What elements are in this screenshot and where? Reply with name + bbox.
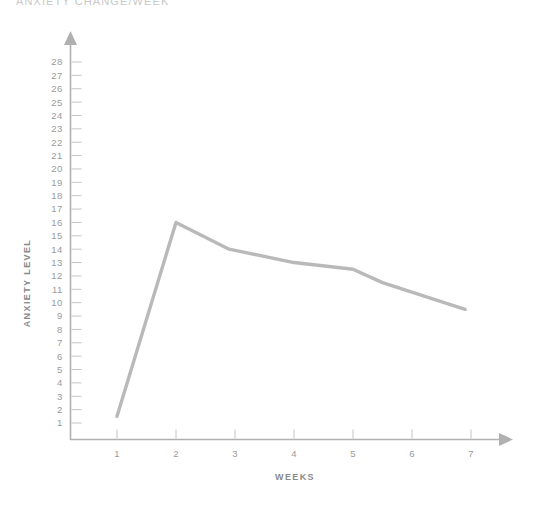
y-tick-label: 10: [51, 297, 62, 308]
y-tick-label: 7: [57, 337, 63, 348]
y-tick-label: 12: [51, 270, 62, 281]
y-tick-label: 9: [57, 310, 63, 321]
y-tick-label: 24: [51, 110, 62, 121]
y-tick-label: 3: [57, 391, 63, 402]
y-axis-arrowhead: [64, 31, 77, 45]
chart-plot-area: 1234567891011121314151617181920212223242…: [0, 0, 538, 509]
y-axis-title: ANXIETY LEVEL: [22, 239, 32, 328]
y-tick-label: 25: [51, 97, 62, 108]
y-tick-label: 20: [51, 163, 62, 174]
y-axis-ticks: 1234567891011121314151617181920212223242…: [51, 56, 81, 428]
y-tick-label: 18: [51, 190, 62, 201]
data-line-anxiety: [117, 222, 465, 416]
anxiety-line-chart: ANXIETY CHANGE/WEEK 12345678910111213141…: [0, 0, 538, 509]
x-tick-label: 2: [173, 448, 179, 459]
y-tick-label: 14: [51, 244, 62, 255]
y-tick-label: 16: [51, 217, 62, 228]
y-tick-label: 19: [51, 177, 62, 188]
x-tick-label: 1: [114, 448, 120, 459]
y-tick-label: 4: [57, 377, 63, 388]
x-tick-label: 5: [350, 448, 356, 459]
data-series-layer: [117, 222, 465, 416]
y-tick-label: 26: [51, 83, 62, 94]
x-axis-ticks: 1234567: [114, 430, 474, 459]
y-tick-label: 8: [57, 324, 63, 335]
y-tick-label: 1: [57, 417, 63, 428]
y-tick-label: 22: [51, 137, 62, 148]
x-tick-label: 6: [409, 448, 415, 459]
y-tick-label: 11: [52, 284, 62, 295]
x-axis-arrowhead: [499, 433, 513, 446]
y-tick-label: 5: [57, 364, 63, 375]
x-axis-title: WEEKS: [275, 472, 315, 482]
x-axis: [71, 433, 514, 446]
y-tick-label: 28: [51, 56, 62, 67]
y-tick-label: 21: [51, 150, 62, 161]
y-tick-label: 6: [57, 351, 63, 362]
y-tick-label: 15: [51, 230, 62, 241]
y-tick-label: 17: [51, 203, 62, 214]
y-tick-label: 23: [51, 123, 62, 134]
y-tick-label: 13: [51, 257, 62, 268]
x-tick-label: 3: [232, 448, 238, 459]
y-tick-label: 2: [57, 404, 63, 415]
x-tick-label: 4: [291, 448, 297, 459]
y-tick-label: 27: [51, 70, 62, 81]
x-tick-label: 7: [468, 448, 474, 459]
